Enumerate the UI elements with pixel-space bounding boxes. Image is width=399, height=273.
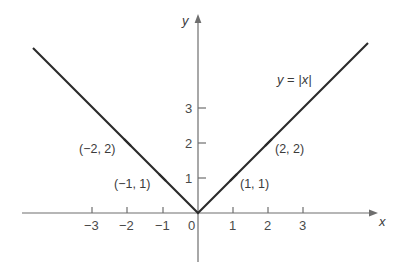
absolute-value-graph-figure: y x −3 −2 −1 0 1 2 3 1 2 3 (−2, 2) (−1, … bbox=[0, 0, 399, 273]
y-axis-label: y bbox=[182, 14, 189, 27]
point-marker-neg1 bbox=[159, 174, 166, 181]
y-tick-label-1: 1 bbox=[185, 172, 192, 185]
point-marker-neg2 bbox=[124, 139, 131, 146]
point-label-2-2: (2, 2) bbox=[275, 143, 304, 156]
x-tick-label-minus-3: −3 bbox=[84, 219, 99, 232]
graph-canvas bbox=[0, 0, 399, 273]
absolute-value-curve bbox=[33, 43, 368, 213]
y-tick-label-2: 2 bbox=[185, 137, 192, 150]
point-label-neg2-2: (−2, 2) bbox=[79, 143, 115, 156]
x-tick-label-minus-1: −1 bbox=[155, 219, 170, 232]
point-marker-pos2 bbox=[265, 139, 272, 146]
x-tick-label-1: 1 bbox=[229, 219, 236, 232]
y-axis-ticks bbox=[198, 108, 206, 178]
equation-label: y = |x| bbox=[277, 73, 312, 86]
point-label-neg1-1: (−1, 1) bbox=[114, 178, 150, 191]
x-tick-label-zero: 0 bbox=[188, 219, 195, 232]
y-axis-arrowhead bbox=[195, 14, 202, 23]
point-label-1-1: (1, 1) bbox=[240, 178, 269, 191]
equation-operator: = bbox=[284, 72, 299, 87]
point-marker-pos1 bbox=[230, 174, 237, 181]
x-tick-label-3: 3 bbox=[299, 219, 306, 232]
y-tick-label-3: 3 bbox=[185, 102, 192, 115]
x-tick-label-2: 2 bbox=[264, 219, 271, 232]
x-axis-label: x bbox=[379, 215, 386, 228]
equation-rhs: |x| bbox=[298, 72, 311, 87]
x-tick-label-minus-2: −2 bbox=[119, 219, 134, 232]
x-axis-arrowhead bbox=[369, 210, 378, 217]
